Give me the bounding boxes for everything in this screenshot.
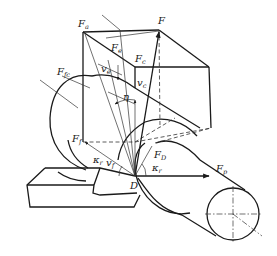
label-Fa: Fa — [77, 18, 89, 31]
Ffc-axis — [40, 80, 78, 108]
label-F: F — [157, 15, 166, 26]
label-FD: FD — [153, 149, 167, 162]
kappa-left-arc — [119, 166, 122, 176]
Fe-line — [108, 60, 135, 176]
force-box — [83, 30, 211, 143]
label-Fc: Fc — [134, 53, 146, 66]
label-eta: η — [123, 91, 129, 102]
label-D: D — [129, 180, 138, 191]
label-vf: vf — [106, 157, 116, 170]
cutting-force-diagram: Fa F Fe Fc Ffc ve vc η Ff κr vf FD κr D … — [0, 0, 277, 256]
labels: Fa F Fe Fc Ffc ve vc η Ff κr vf FD κr D … — [56, 15, 228, 191]
label-Ff: Ff — [71, 133, 83, 146]
label-Fe: Fe — [110, 42, 122, 55]
cutting-tool — [27, 140, 140, 207]
label-vc: vc — [137, 77, 147, 90]
label-kappa-right: κr — [151, 162, 163, 175]
kappa-right-arc — [142, 164, 146, 176]
label-Ffc: Ffc — [56, 66, 70, 79]
label-kappa-left: κr — [92, 154, 104, 167]
workpiece-small-cylinder — [118, 119, 262, 242]
